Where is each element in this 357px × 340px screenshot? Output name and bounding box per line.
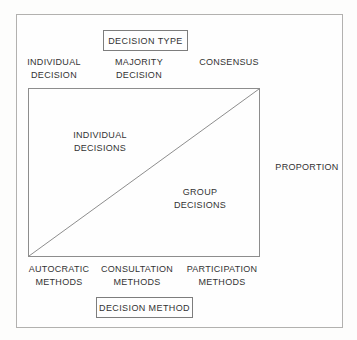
region-label-group-decisions: GROUP DECISIONS [155, 186, 245, 212]
decision-type-box: DECISION TYPE [103, 30, 188, 51]
top-axis-label-consensus: CONSENSUS [189, 56, 269, 69]
decision-method-label: DECISION METHOD [99, 303, 190, 313]
region-label-individual-decisions: INDIVIDUAL DECISIONS [55, 129, 145, 155]
right-axis-label-proportion: PROPORTION [267, 161, 347, 174]
bottom-axis-label-participation-methods: PARTICIPATION METHODS [185, 263, 259, 289]
bottom-axis-label-autocratic-methods: AUTOCRATIC METHODS [23, 263, 95, 289]
decision-method-box: DECISION METHOD [96, 297, 193, 318]
top-axis-label-individual-decision: INDIVIDUAL DECISION [18, 56, 90, 82]
top-axis-label-majority-decision: MAJORITY DECISION [103, 56, 175, 82]
decision-type-label: DECISION TYPE [108, 36, 183, 46]
bottom-axis-label-consultation-methods: CONSULTATION METHODS [101, 263, 173, 289]
diagonal-line [29, 89, 259, 256]
proportion-matrix [28, 88, 260, 257]
